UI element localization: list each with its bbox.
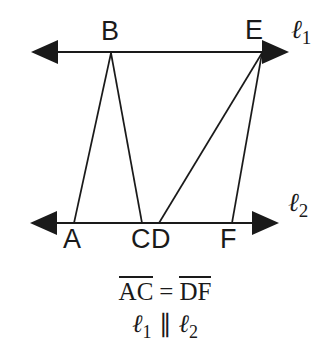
segment-df-notation: DF bbox=[179, 276, 211, 304]
point-label-c: C bbox=[131, 226, 151, 253]
line-label-l1: ℓ1 bbox=[291, 17, 311, 47]
parallel-sign: ∥ bbox=[152, 311, 179, 337]
line-label-l2: ℓ2 bbox=[288, 190, 308, 220]
line-label-l2-glyph: ℓ bbox=[288, 188, 299, 217]
caption-parallel-statement: ℓ1∥ℓ2 bbox=[0, 311, 330, 342]
line-l2-right-arrowhead bbox=[252, 211, 279, 235]
line-l1-right-arrowhead bbox=[262, 40, 289, 64]
segment-ba bbox=[74, 53, 111, 223]
caption-l1-glyph: ℓ bbox=[132, 310, 142, 337]
caption-l1-subscript: 1 bbox=[143, 322, 152, 342]
equality-sign: = bbox=[153, 279, 179, 305]
line-l2-left-arrowhead bbox=[30, 211, 57, 235]
geometry-figure: B E A C D F ℓ1 ℓ2 AC=DF ℓ1∥ℓ2 bbox=[0, 0, 330, 347]
line-l1-left-arrowhead bbox=[31, 40, 58, 64]
caption: AC=DF ℓ1∥ℓ2 bbox=[0, 276, 330, 342]
point-label-b: B bbox=[101, 18, 119, 45]
segment-ac-notation: AC bbox=[119, 276, 154, 304]
line-label-l1-glyph: ℓ bbox=[291, 15, 302, 44]
line-label-l2-subscript: 2 bbox=[299, 200, 309, 221]
line-label-l1-subscript: 1 bbox=[302, 27, 312, 48]
caption-congruence-statement: AC=DF bbox=[0, 276, 330, 305]
point-label-d: D bbox=[151, 226, 171, 253]
caption-l2-subscript: 2 bbox=[189, 322, 198, 342]
caption-l2-glyph: ℓ bbox=[179, 310, 189, 337]
segment-bc bbox=[111, 53, 142, 223]
point-label-f: F bbox=[220, 226, 237, 253]
point-label-e: E bbox=[245, 17, 263, 44]
point-label-a: A bbox=[63, 226, 81, 253]
